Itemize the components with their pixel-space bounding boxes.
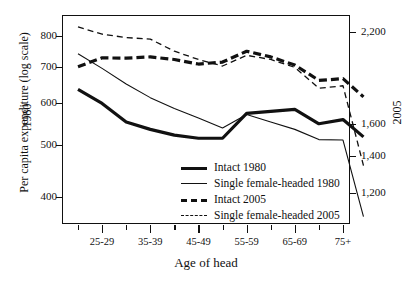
x-tick-label: 45-49	[186, 236, 211, 247]
y-tick-label-left: 500	[41, 138, 58, 150]
x-tick-label: 25-29	[90, 236, 115, 247]
y-tick-mark-left	[56, 67, 63, 68]
y-tick-label-left: 600	[41, 96, 58, 108]
y-axis-left-subtitle: 1980	[20, 87, 35, 145]
x-tick-mark	[198, 225, 199, 233]
x-tick-mark	[174, 225, 175, 230]
legend-label: Single female-headed 2005	[214, 209, 340, 221]
legend-item: Intact 1980	[181, 159, 340, 175]
y-tick-label-right: 1,400	[361, 149, 386, 161]
legend-label: Intact 2005	[214, 193, 266, 205]
chart-legend: Intact 1980Single female-headed 1980Inta…	[181, 159, 340, 223]
y-tick-label-right: 2,200	[361, 25, 386, 37]
y-tick-mark-left	[56, 197, 63, 198]
legend-line-swatch	[181, 162, 207, 172]
y-tick-mark-left	[56, 145, 63, 146]
legend-item: Intact 2005	[181, 191, 340, 207]
x-tick-mark	[295, 225, 296, 233]
y-tick-label-right: 1,200	[361, 186, 386, 198]
x-tick-label: 55-59	[234, 236, 259, 247]
legend-label: Single female-headed 1980	[214, 177, 340, 189]
y-tick-mark-left	[56, 36, 63, 37]
y-tick-label-right: 1,600	[361, 117, 386, 129]
y-tick-label-left: 700	[41, 60, 58, 72]
legend-line-swatch	[181, 194, 207, 204]
x-tick-mark	[247, 225, 248, 233]
x-tick-mark	[223, 225, 224, 230]
x-tick-label: 75+	[335, 236, 351, 247]
y-axis-right-title: 2005	[390, 88, 405, 138]
legend-line-swatch	[181, 178, 207, 188]
y-tick-label-left: 800	[41, 29, 58, 41]
x-tick-label: 65-69	[283, 236, 308, 247]
x-tick-mark	[271, 225, 272, 230]
legend-item: Single female-headed 2005	[181, 207, 340, 223]
series-line	[78, 27, 363, 166]
y-tick-label-left: 400	[41, 190, 58, 202]
x-tick-mark	[102, 225, 103, 233]
series-line	[78, 89, 363, 138]
series-line	[78, 51, 363, 97]
legend-label: Intact 1980	[214, 161, 266, 173]
legend-item: Single female-headed 1980	[181, 175, 340, 191]
x-tick-mark	[150, 225, 151, 233]
chart-container: Per capita expenditure (log scale) 1980 …	[0, 0, 418, 282]
legend-line-swatch	[181, 210, 207, 220]
y-tick-mark-left	[56, 103, 63, 104]
x-tick-label: 35-39	[138, 236, 163, 247]
x-tick-mark	[343, 225, 344, 233]
x-tick-mark	[78, 225, 79, 230]
x-axis-title: Age of head	[62, 255, 350, 271]
x-tick-mark	[126, 225, 127, 230]
plot-area: 800700600500400 2,2001,6001,4001,200 25-…	[62, 15, 350, 224]
x-tick-mark	[319, 225, 320, 230]
